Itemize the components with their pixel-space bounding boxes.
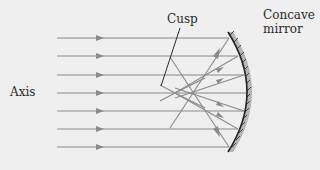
cusp-label: Cusp (167, 13, 198, 26)
mirror-label-line2: mirror (263, 23, 303, 36)
concave-mirror (228, 32, 247, 152)
cusp-pointer (161, 28, 180, 86)
mirror-label-line1: Concave (263, 9, 315, 22)
diagram-panel: Cusp Concave mirror Axis (0, 0, 320, 170)
reflected-ray (190, 93, 244, 111)
mirror-shade (228, 32, 252, 152)
caustic-upper (175, 78, 205, 93)
reflected-ray (160, 85, 175, 93)
reflected-ray (190, 75, 244, 93)
axis-label: Axis (10, 86, 35, 99)
caustic-lower (175, 93, 205, 108)
reflected-ray (160, 93, 175, 101)
